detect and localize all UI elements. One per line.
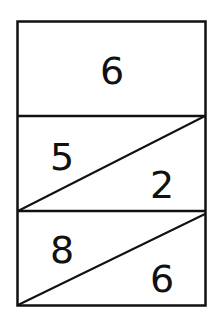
- cell-3-top-left-value: 8: [50, 228, 74, 272]
- cell-2-bottom-right-value: 2: [150, 163, 174, 207]
- cell-2-top-left-value: 5: [50, 135, 74, 179]
- cell-3-diagonal: [18, 214, 205, 305]
- number-box-diagram: 6 5 2 8 6: [0, 0, 224, 325]
- cell-1-value: 6: [100, 49, 124, 93]
- cell-2-diagonal: [18, 116, 205, 211]
- cell-3-bottom-right-value: 6: [150, 257, 174, 301]
